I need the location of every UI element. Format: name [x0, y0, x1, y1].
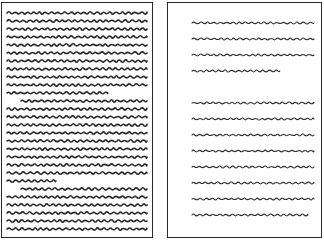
text-line	[7, 76, 147, 78]
dense-text-lines	[2, 3, 152, 237]
text-line	[7, 20, 147, 22]
text-line	[7, 28, 147, 30]
text-line	[192, 166, 314, 168]
text-line	[21, 188, 147, 190]
text-line	[192, 182, 314, 184]
text-line	[7, 12, 147, 14]
dense-text-page: dense-page	[1, 2, 153, 238]
text-line	[7, 44, 147, 46]
text-line	[7, 84, 147, 86]
text-line	[7, 204, 147, 206]
text-line	[7, 36, 147, 38]
text-line	[21, 100, 147, 102]
text-line	[192, 102, 314, 104]
text-line	[192, 38, 314, 40]
text-line	[7, 116, 147, 118]
text-line	[192, 118, 314, 120]
sparse-text-lines	[168, 3, 321, 237]
text-line	[7, 132, 147, 134]
text-line	[7, 164, 147, 167]
text-line	[7, 156, 147, 158]
text-line	[192, 150, 314, 152]
text-line	[7, 108, 147, 110]
text-line	[192, 134, 314, 136]
text-line	[7, 92, 108, 94]
text-line	[7, 124, 147, 126]
text-line	[7, 172, 147, 174]
text-line	[192, 214, 308, 216]
text-line	[7, 180, 56, 182]
text-line	[7, 52, 147, 54]
text-line	[192, 70, 280, 72]
text-line	[7, 196, 147, 198]
text-line	[7, 220, 147, 223]
sparse-text-page: sparse-page	[167, 2, 322, 238]
text-line	[7, 148, 147, 150]
text-line	[192, 54, 314, 56]
text-line	[7, 140, 147, 142]
text-line	[192, 198, 314, 200]
text-line	[7, 60, 147, 62]
text-line	[7, 228, 147, 230]
text-line	[7, 212, 147, 214]
text-line	[192, 22, 314, 24]
text-line	[7, 68, 147, 70]
